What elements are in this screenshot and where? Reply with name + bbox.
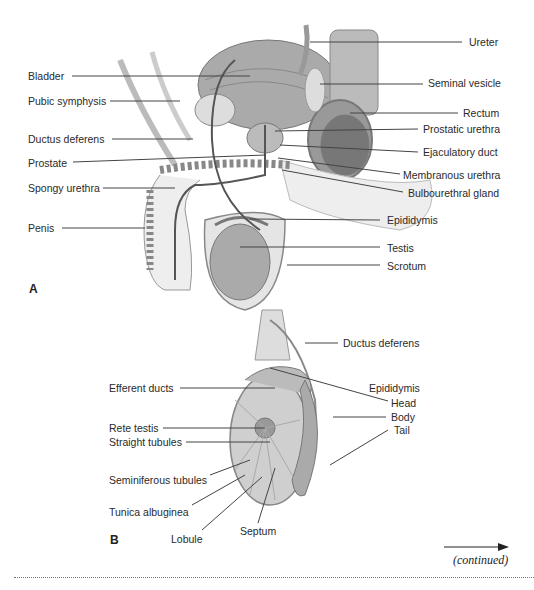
label-rectum: Rectum: [463, 107, 499, 119]
continued-note: (continued): [453, 553, 508, 568]
right-arrow-icon: [444, 543, 509, 551]
panel-label-b: B: [110, 533, 119, 547]
label-ductus-deferens: Ductus deferens: [28, 133, 104, 145]
label-tail: Tail: [394, 424, 410, 436]
label-septum: Septum: [240, 525, 276, 537]
label-spongy-urethra: Spongy urethra: [28, 182, 100, 194]
figure-a-artwork: [120, 25, 432, 310]
label-ejaculatory-duct: Ejaculatory duct: [423, 146, 498, 158]
label-ductus-deferens-b: Ductus deferens: [343, 337, 419, 349]
label-epididymis-b: Epididymis: [369, 382, 420, 394]
label-scrotum: Scrotum: [387, 260, 426, 272]
label-lobule: Lobule: [171, 533, 203, 545]
label-penis: Penis: [28, 222, 54, 234]
label-seminiferous-tubules: Seminiferous tubules: [109, 474, 207, 486]
label-bladder: Bladder: [28, 70, 64, 82]
label-ureter: Ureter: [469, 36, 498, 48]
label-body: Body: [391, 411, 415, 423]
panel-label-a: A: [29, 282, 38, 296]
label-bulbourethral-gland: Bulbourethral gland: [408, 187, 499, 199]
label-efferent-ducts: Efferent ducts: [109, 382, 174, 394]
label-prostate: Prostate: [28, 157, 67, 169]
label-rete-testis: Rete testis: [109, 422, 159, 434]
page-divider: [14, 577, 534, 578]
label-seminal-vesicle: Seminal vesicle: [428, 77, 501, 89]
label-epididymis: Epididymis: [387, 214, 438, 226]
label-prostatic-urethra: Prostatic urethra: [423, 123, 500, 135]
label-straight-tubules: Straight tubules: [109, 436, 182, 448]
label-tunica-albuginea: Tunica albuginea: [109, 506, 189, 518]
label-pubic-symphysis: Pubic symphysis: [28, 95, 106, 107]
label-head: Head: [391, 397, 416, 409]
label-testis: Testis: [387, 242, 414, 254]
label-membranous-urethra: Membranous urethra: [403, 169, 500, 181]
